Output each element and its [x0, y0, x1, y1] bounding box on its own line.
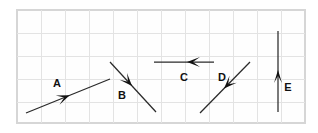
- vector-label: E: [284, 81, 291, 93]
- vector-diagram-canvas: ABCDE: [0, 0, 318, 133]
- vector-label: C: [180, 71, 188, 83]
- vector-label: A: [53, 77, 61, 89]
- vector-diagram-figure: ABCDE: [0, 0, 318, 133]
- vector-label: B: [118, 89, 126, 101]
- vector-label: D: [218, 71, 226, 83]
- grid-background: [17, 10, 305, 123]
